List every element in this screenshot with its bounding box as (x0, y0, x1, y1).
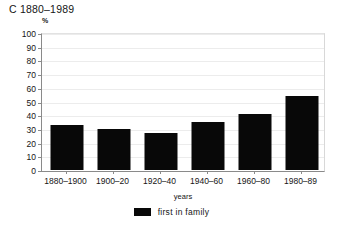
y-axis-tick (38, 75, 42, 76)
x-axis-tick (254, 171, 255, 174)
x-axis-tick (207, 171, 208, 174)
legend-swatch-first-in-family (134, 208, 151, 216)
y-axis-tick-label: 30 (27, 125, 36, 135)
bar-slot (43, 34, 90, 170)
y-axis-tick (38, 103, 42, 104)
y-axis-tick (38, 48, 42, 49)
y-axis-tick (38, 89, 42, 90)
y-axis-unit-label: % (42, 17, 48, 24)
bar[interactable] (191, 122, 224, 170)
bar-slot (231, 34, 278, 170)
bar-slot (278, 34, 325, 170)
y-axis-tick (38, 116, 42, 117)
y-axis-tick-label: 80 (27, 56, 36, 66)
chart-legend: first in family (0, 207, 343, 217)
bar[interactable] (238, 114, 271, 170)
x-axis-tick (160, 171, 161, 174)
chart-title: C 1880–1989 (9, 3, 74, 15)
y-axis-tick (38, 144, 42, 145)
bar[interactable] (50, 125, 83, 170)
bar-slot (137, 34, 184, 170)
y-axis-tick-label: 40 (27, 111, 36, 121)
y-axis-tick (38, 157, 42, 158)
y-axis-tick (38, 34, 42, 35)
x-axis-tick (301, 171, 302, 174)
x-axis-title: years (41, 192, 325, 201)
x-axis-tick-label: 1980–89 (284, 176, 317, 186)
y-axis-tick-label: 60 (27, 84, 36, 94)
legend-label-first-in-family: first in family (158, 207, 210, 217)
x-axis-tick (66, 171, 67, 174)
x-axis-tick-label: 1900–20 (96, 176, 129, 186)
y-axis-tick (38, 130, 42, 131)
x-axis-tick (113, 171, 114, 174)
x-axis-tick-label: 1920–40 (143, 176, 176, 186)
y-axis-tick-label: 10 (27, 152, 36, 162)
x-axis-tick-label: 1960–80 (237, 176, 270, 186)
plot-area: 0102030405060708090100 1880–19001900–201… (41, 33, 325, 172)
x-axis-tick-label: 1940–60 (190, 176, 223, 186)
y-axis-tick-label: 20 (27, 139, 36, 149)
bar-slot (184, 34, 231, 170)
bar[interactable] (144, 133, 177, 170)
bar-slot (90, 34, 137, 170)
bar-series-first-in-family (43, 34, 324, 170)
y-axis-tick (38, 171, 42, 172)
y-axis-tick-label: 0 (31, 166, 36, 176)
bar[interactable] (285, 96, 318, 170)
x-axis-tick-label: 1880–1900 (44, 176, 87, 186)
y-axis-tick-label: 100 (22, 29, 36, 39)
y-axis-tick-label: 50 (27, 98, 36, 108)
y-axis-tick-label: 90 (27, 43, 36, 53)
bar[interactable] (97, 129, 130, 170)
y-axis-tick-label: 70 (27, 70, 36, 80)
y-axis-tick (38, 61, 42, 62)
